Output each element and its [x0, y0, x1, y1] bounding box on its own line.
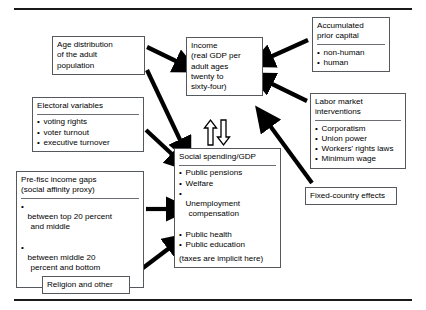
- list-item: voter turnout: [37, 128, 139, 138]
- list-item: executive turnover: [37, 138, 139, 148]
- box-social-spending-list: Public pensions Welfare Unemployment com…: [179, 168, 276, 250]
- box-fixed-country-effects: Fixed-country effects: [305, 187, 397, 205]
- arrow-age-to-social: [147, 70, 182, 144]
- figure-top-rule: [14, 8, 412, 10]
- box-social-spending-note: (taxes are implicit here): [179, 254, 276, 264]
- box-labor-market-interventions-header: Labor market interventions: [315, 97, 401, 118]
- list-item: between top 20 percent and middle: [21, 202, 139, 243]
- box-accumulated-prior-capital-header: Accumulated prior capital: [317, 21, 385, 42]
- arrow-capital-to-income: [268, 40, 308, 58]
- figure-canvas: Age distribution of the adult population…: [0, 0, 426, 310]
- box-accumulated-prior-capital: Accumulated prior capital non-human huma…: [312, 17, 390, 72]
- list-item: Workers' rights laws: [315, 144, 401, 154]
- list-item: Public education: [179, 240, 276, 250]
- box-social-spending-header: Social spending/GDP: [179, 152, 276, 162]
- box-electoral-variables-header: Electoral variables: [37, 101, 139, 111]
- arrow-electoral-to-social: [146, 130, 175, 157]
- box-fixed-country-effects-header: Fixed-country effects: [310, 191, 392, 201]
- box-prefisc-income-gaps-header: Pre-fisc income gaps (social affinity pr…: [21, 175, 139, 196]
- list-item: Union power: [315, 134, 401, 144]
- box-electoral-variables: Electoral variables voting rights voter …: [32, 97, 144, 152]
- figure-bottom-rule: [14, 299, 412, 301]
- arrow-social-to-income-hollow: [204, 120, 216, 145]
- list-item: Public pensions: [179, 168, 276, 178]
- box-religion-and-other: Religion and other: [42, 276, 130, 294]
- divider: [179, 165, 276, 166]
- box-prefisc-income-gaps-list: between top 20 percent and middle betwee…: [21, 202, 139, 284]
- divider: [317, 44, 385, 45]
- box-labor-market-interventions-list: Corporatism Union power Workers' rights …: [315, 124, 401, 165]
- box-labor-market-interventions: Labor market interventions Corporatism U…: [310, 93, 406, 169]
- box-age-distribution-header: Age distribution of the adult population: [57, 40, 140, 71]
- arrow-age-to-income: [147, 47, 180, 63]
- divider: [315, 120, 401, 121]
- list-item: Public health: [179, 230, 276, 240]
- list-item: Welfare: [179, 179, 276, 189]
- list-item: Corporatism: [315, 124, 401, 134]
- box-prefisc-income-gaps: Pre-fisc income gaps (social affinity pr…: [16, 171, 144, 288]
- list-item: Unemployment compensation: [179, 189, 276, 230]
- arrow-labor-to-income: [268, 82, 307, 101]
- box-age-distribution: Age distribution of the adult population: [52, 36, 145, 75]
- arrow-income-to-social-hollow: [217, 120, 229, 145]
- list-item: non-human: [317, 48, 385, 58]
- divider: [21, 198, 139, 199]
- box-social-spending: Social spending/GDP Public pensions Welf…: [174, 148, 281, 268]
- box-income: Income (real GDP per adult ages twenty t…: [186, 37, 263, 96]
- box-electoral-variables-list: voting rights voter turnout executive tu…: [37, 117, 139, 148]
- box-income-header: Income (real GDP per adult ages twenty t…: [191, 41, 258, 92]
- list-item: voting rights: [37, 117, 139, 127]
- box-accumulated-prior-capital-list: non-human human: [317, 48, 385, 69]
- list-item: Minimum wage: [315, 154, 401, 164]
- box-religion-and-other-header: Religion and other: [47, 280, 125, 290]
- divider: [37, 114, 139, 115]
- list-item: human: [317, 58, 385, 68]
